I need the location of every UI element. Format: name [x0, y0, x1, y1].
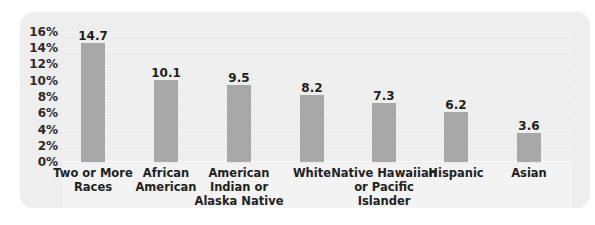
- bar-value-label: 6.2: [436, 99, 476, 111]
- bar-asian: [517, 133, 541, 162]
- bar-american-indian-alaska-native: [227, 85, 251, 162]
- bar-value-label: 3.6: [509, 120, 549, 132]
- bar-white: [300, 95, 324, 162]
- category-label-asian: Asian: [474, 166, 584, 180]
- y-tick-4: 4%: [14, 124, 58, 136]
- y-tick-16: 16%: [14, 26, 58, 38]
- y-tick-2: 2%: [14, 140, 58, 152]
- bar-value-label: 9.5: [219, 72, 259, 84]
- plot-area: 14.7 10.1 9.5 8.2 7.3 6.2 3.6: [62, 32, 572, 162]
- y-tick-6: 6%: [14, 107, 58, 119]
- gridline: [62, 32, 572, 33]
- bar-value-label: 8.2: [292, 82, 332, 94]
- bar-value-label: 7.3: [364, 90, 404, 102]
- bar-native-hawaiian-pacific-islander: [372, 103, 396, 162]
- y-tick-14: 14%: [14, 42, 58, 54]
- bar-two-or-more-races: [81, 43, 105, 162]
- bar-african-american: [154, 80, 178, 162]
- y-tick-10: 10%: [14, 75, 58, 87]
- bar-hispanic: [444, 112, 468, 162]
- gridline: [62, 65, 572, 66]
- bar-value-label: 10.1: [146, 67, 186, 79]
- y-tick-12: 12%: [14, 58, 58, 70]
- bar-value-label: 14.7: [73, 30, 113, 42]
- y-tick-8: 8%: [14, 91, 58, 103]
- gridline: [62, 48, 572, 49]
